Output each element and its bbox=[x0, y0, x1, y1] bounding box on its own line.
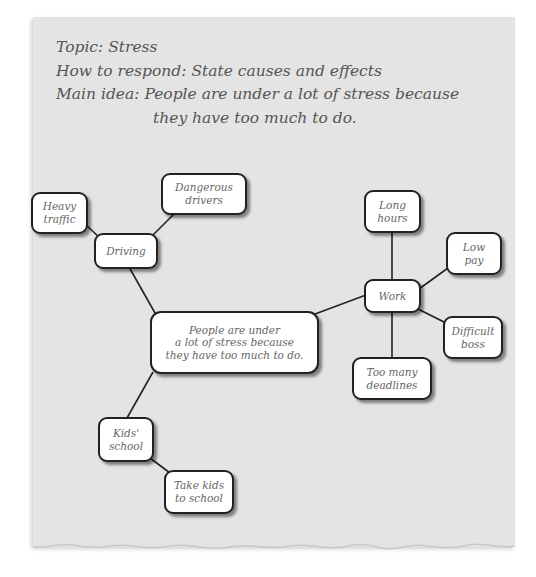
node-take-kids-to-school: Take kids to school bbox=[164, 470, 234, 514]
link-driving-center bbox=[129, 267, 155, 313]
node-work: Work bbox=[364, 279, 421, 313]
link-work-low-pay bbox=[419, 268, 448, 289]
link-center-kids-school bbox=[127, 372, 153, 418]
node-heavy-traffic: Heavy traffic bbox=[31, 192, 88, 234]
node-kids-school: Kids' school bbox=[98, 417, 154, 462]
link-dangerous-drivers-driving bbox=[151, 212, 176, 237]
node-low-pay: Low pay bbox=[446, 232, 502, 275]
link-center-work bbox=[315, 295, 366, 314]
node-center-main-idea: People are under a lot of stress because… bbox=[150, 311, 319, 374]
node-driving: Driving bbox=[94, 233, 158, 269]
node-dangerous-drivers: Dangerous drivers bbox=[161, 173, 247, 215]
node-too-many-deadlines: Too many deadlines bbox=[352, 357, 432, 400]
node-difficult-boss: Difficult boss bbox=[443, 316, 503, 359]
node-long-hours: Long hours bbox=[364, 190, 421, 233]
link-work-difficult-boss bbox=[416, 308, 446, 323]
connector-lines bbox=[0, 0, 536, 577]
